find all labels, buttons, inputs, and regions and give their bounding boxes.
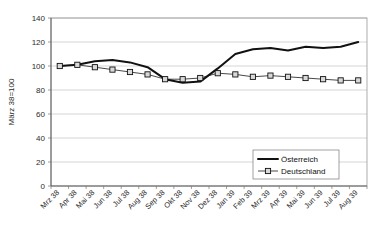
series-marker-deutschland [233,72,238,77]
legend-label-osterreich: Österreich [281,155,318,164]
x-axis-tick-label: Aug 39 [336,188,359,211]
y-axis-tick-label: 40 [36,134,45,143]
x-axis-tick-label: Mai 39 [285,188,307,210]
series-marker-deutschland [180,77,185,82]
x-axis-tick-label: Mrz 38 [39,188,62,211]
series-marker-deutschland [198,75,203,80]
series-line-osterreich [60,42,358,83]
legend: ÖsterreichDeutschland [253,150,339,179]
series-marker-deutschland [338,78,343,83]
x-axis-tick-label: Jun 38 [92,188,114,210]
x-axis-tick-label: Sep 38 [143,188,166,211]
y-axis-tick-label: 80 [36,86,45,95]
series-marker-deutschland [285,74,290,79]
series-marker-deutschland [110,67,115,72]
y-axis-tick-label: 20 [36,158,45,167]
line-chart: 140120100806040200Mrz 38Apr 38Mai 38Jun … [0,0,389,240]
x-axis-tick-label: Mai 38 [74,188,96,210]
x-axis-tick-label: Mrz 39 [249,188,272,211]
legend-label-deutschland: Deutschland [281,167,325,176]
x-axis-tick-label: Feb 39 [231,188,254,211]
legend-swatch-marker-deutschland [265,168,270,173]
y-axis-tick-label: 60 [36,110,45,119]
y-axis-tick-label: 120 [32,38,46,47]
y-axis-title: März 38=100 [7,78,16,125]
series-marker-deutschland [57,63,62,68]
gridlines [51,18,367,162]
x-axis-tick-label: Dez 38 [196,188,219,211]
y-axis-tick-label: 0 [41,182,46,191]
chart-container: 140120100806040200Mrz 38Apr 38Mai 38Jun … [0,0,389,240]
series-marker-deutschland [92,65,97,70]
series-line-deutschland [60,65,358,81]
x-axis-tick-label: Jun 39 [302,188,324,210]
series-marker-deutschland [268,73,273,78]
series-marker-deutschland [145,72,150,77]
series-marker-deutschland [321,77,326,82]
series-marker-deutschland [303,75,308,80]
series-marker-deutschland [127,69,132,74]
series-marker-deutschland [163,77,168,82]
y-axis-tick-label: 100 [32,62,46,71]
series-marker-deutschland [250,74,255,79]
series-marker-deutschland [75,62,80,67]
series-marker-deutschland [356,78,361,83]
y-axis-tick-label: 140 [32,14,46,23]
series-marker-deutschland [215,71,220,76]
